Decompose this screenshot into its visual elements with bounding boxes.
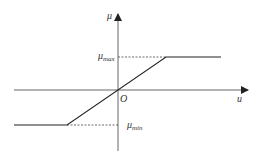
max-subscript: max [103, 55, 116, 63]
x-axis-label: u [237, 93, 242, 104]
saturation-diagram: μ u O μmax μmin [0, 0, 257, 161]
min-subscript: min [132, 124, 143, 132]
saturation-curve [14, 57, 221, 125]
min-level-label: μmin [126, 119, 143, 132]
origin-label: O [120, 93, 127, 104]
y-axis-label: μ [106, 10, 112, 21]
max-level-label: μmax [97, 50, 116, 63]
